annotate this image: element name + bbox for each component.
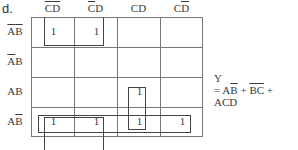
row-header: AB	[0, 55, 30, 67]
literal: B	[15, 115, 22, 127]
plus-sign: +	[238, 84, 250, 96]
literal: D	[52, 2, 60, 14]
column-header: CD	[31, 2, 74, 14]
expression-term: BC	[249, 84, 264, 96]
literal: D	[181, 2, 189, 14]
map-cell	[75, 46, 118, 76]
map-cell	[118, 46, 161, 76]
column-header: CD	[160, 2, 203, 14]
row-header: AB	[0, 85, 30, 97]
map-cell	[161, 16, 204, 46]
map-cell	[32, 46, 75, 76]
group-acd-loop	[128, 87, 146, 130]
figure-label: d.	[2, 1, 13, 16]
literal: D	[95, 2, 103, 14]
group-ab-bar-loop	[38, 115, 191, 133]
literal: BC	[249, 84, 264, 96]
literal: B	[15, 55, 22, 67]
expression-terms: = AB + BC + ACD	[214, 84, 298, 108]
map-cell	[75, 76, 118, 106]
map-cell	[32, 76, 75, 106]
column-header: CD	[74, 2, 117, 14]
literal: B	[15, 85, 22, 97]
group-bc-bar-loop-top	[44, 17, 104, 46]
literal: B	[15, 25, 22, 37]
expression-term: AB	[222, 84, 237, 96]
map-cell	[161, 46, 204, 76]
row-header: AB	[0, 25, 30, 37]
expression-term: ACD	[214, 96, 237, 108]
literal: B	[230, 84, 237, 96]
row-header: AB	[0, 115, 30, 127]
column-header: CD	[117, 2, 160, 14]
boolean-expression: Y = AB + BC + ACD	[214, 72, 298, 108]
map-cell	[118, 16, 161, 46]
plus-sign: +	[264, 84, 273, 96]
map-cell	[161, 76, 204, 106]
literal: D	[138, 2, 146, 14]
literal: ACD	[214, 96, 237, 108]
output-variable: Y	[214, 72, 298, 84]
